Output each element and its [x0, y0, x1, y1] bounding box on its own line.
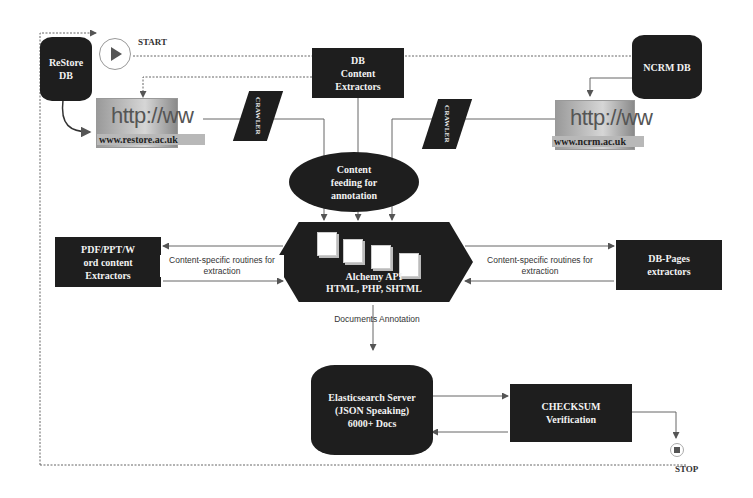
documents-annotation-label: Documents Annotation — [322, 314, 432, 325]
elasticsearch-line2: (JSON Speaking) — [335, 404, 409, 417]
left-routines-label: Content-specific routines for extraction — [160, 255, 284, 277]
http-text: http://ww — [570, 105, 652, 131]
ncrm-db-label: NCRM DB — [643, 61, 691, 74]
content-feeding-line3: annotation — [331, 189, 377, 202]
checksum-line2: Verification — [546, 413, 596, 426]
stop-control[interactable] — [670, 443, 684, 457]
right-routines-line2: extraction — [474, 266, 606, 277]
document-icon — [343, 239, 363, 263]
alchemy-line2: HTML, PHP, SHTML — [275, 283, 473, 295]
stop-label: STOP — [675, 464, 698, 474]
document-icon — [371, 245, 391, 269]
left-routines-line1: Content-specific routines for — [160, 255, 284, 266]
alchemy-api-hexagon: Alchemy API HTML, PHP, SHTML — [275, 222, 473, 302]
pdf-extractors-line3: Extractors — [85, 269, 131, 282]
restore-db-line2: DB — [59, 69, 73, 82]
start-label: START — [138, 37, 167, 47]
alchemy-line1: Alchemy API — [275, 271, 473, 283]
content-feeding-line1: Content — [337, 163, 371, 176]
db-pages-extractors: DB-Pages extractors — [616, 240, 722, 290]
start-control[interactable] — [99, 38, 131, 70]
db-content-extractors: DB Content Extractors — [312, 48, 404, 98]
checksum-line1: CHECKSUM — [542, 400, 601, 413]
elasticsearch-server: Elasticsearch Server (JSON Speaking) 600… — [311, 365, 433, 455]
document-icon — [317, 232, 337, 256]
restore-db-line1: ReStore — [49, 56, 83, 69]
crawler-right-label: CRAWLER — [443, 105, 451, 143]
content-feeding-line2: feeding for — [331, 176, 377, 189]
http-text: http://ww — [111, 103, 193, 129]
restore-db: ReStore DB — [40, 37, 92, 101]
right-routines-label: Content-specific routines for extraction — [474, 255, 606, 277]
content-feeding-ellipse: Content feeding for annotation — [289, 152, 419, 212]
stop-icon — [674, 447, 680, 453]
elasticsearch-line3: 6000+ Docs — [348, 417, 397, 430]
left-routines-line2: extraction — [160, 266, 284, 277]
elasticsearch-line1: Elasticsearch Server — [328, 391, 415, 404]
pdf-extractors-line1: PDF/PPT/W — [81, 243, 135, 256]
crawler-left-label: CRAWLER — [254, 97, 262, 135]
restore-site-image: http://ww www.restore.ac.uk — [96, 98, 178, 148]
ncrm-db: NCRM DB — [632, 35, 702, 99]
db-pages-line1: DB-Pages — [648, 252, 690, 265]
db-content-extractors-line1: DB — [351, 54, 365, 67]
db-content-extractors-line2: Content — [341, 67, 375, 80]
db-content-extractors-line3: Extractors — [335, 80, 381, 93]
ncrm-url: www.ncrm.ac.uk — [552, 136, 644, 147]
right-routines-line1: Content-specific routines for — [474, 255, 606, 266]
db-pages-line2: extractors — [647, 265, 690, 278]
pdf-extractors-line2: ord content — [83, 256, 132, 269]
ncrm-site-image: http://ww www.ncrm.ac.uk — [555, 100, 635, 150]
play-icon — [111, 47, 122, 61]
checksum-verification: CHECKSUM Verification — [510, 384, 632, 442]
flowchart-canvas: START STOP ReStore DB NCRM DB DB Content… — [0, 0, 753, 498]
restore-url: www.restore.ac.uk — [97, 134, 205, 145]
pdf-ppt-word-extractors: PDF/PPT/W ord content Extractors — [55, 237, 161, 287]
